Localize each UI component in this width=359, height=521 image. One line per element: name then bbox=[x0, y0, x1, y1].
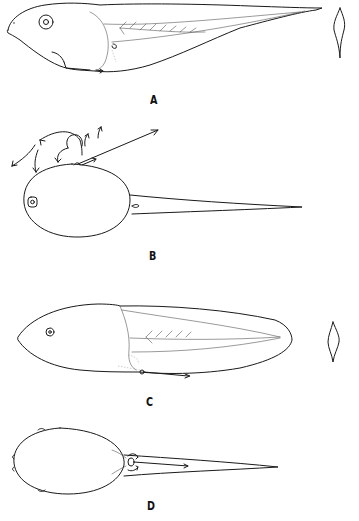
panel-label-c: C bbox=[146, 395, 153, 409]
panel-label-a: A bbox=[150, 93, 157, 107]
panel-c-tadpole-lateral-broad-fin bbox=[18, 304, 339, 378]
panel-a-tadpole-lateral bbox=[7, 3, 344, 73]
panel-b-tadpole-dorsal bbox=[12, 127, 302, 237]
figure-drawings bbox=[0, 0, 359, 521]
panel-label-b: B bbox=[149, 249, 156, 263]
panel-d-tadpole-ventral bbox=[13, 428, 279, 494]
panel-label-d: D bbox=[147, 499, 155, 513]
